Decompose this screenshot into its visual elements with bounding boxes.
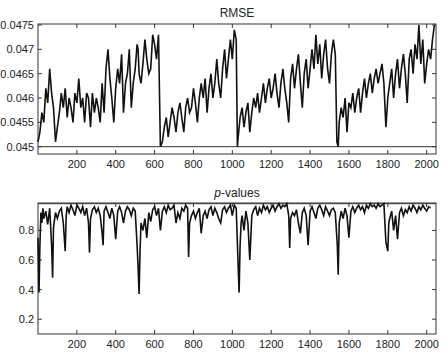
rmse-y-ticks: 0.0450.04550.0460.04650.0470.0475 [0, 19, 436, 153]
y-tick-label: 0.047 [6, 43, 34, 55]
rmse-panel: RMSE 20040060080010001200140016001800200… [0, 6, 439, 170]
x-tick-label: 1400 [298, 338, 322, 350]
x-tick-label: 800 [184, 338, 202, 350]
x-tick-label: 800 [184, 158, 202, 170]
pvalues-series-line [38, 204, 431, 294]
y-tick-label: 0.0475 [0, 19, 34, 31]
x-tick-label: 1200 [259, 338, 283, 350]
x-tick-label: 1600 [337, 338, 361, 350]
y-tick-label: 0.8 [19, 224, 34, 236]
y-tick-label: 0.2 [19, 313, 34, 325]
pvalues-title-rest: -values [221, 186, 260, 200]
rmse-series-line [38, 25, 434, 147]
pvalues-y-ticks: 0.20.40.60.8 [19, 224, 436, 325]
y-tick-label: 0.0455 [0, 116, 34, 128]
x-tick-label: 1600 [337, 158, 361, 170]
x-tick-label: 1800 [376, 158, 400, 170]
x-tick-label: 1000 [220, 338, 244, 350]
x-tick-label: 200 [68, 158, 86, 170]
x-tick-label: 2000 [414, 338, 438, 350]
pvalues-title: p-values [213, 186, 259, 200]
x-tick-label: 2000 [414, 158, 438, 170]
y-tick-label: 0.045 [6, 141, 34, 153]
y-tick-label: 0.4 [19, 284, 34, 296]
x-tick-label: 200 [68, 338, 86, 350]
pvalues-x-ticks: 200400600800100012001400160018002000 [68, 203, 439, 350]
x-tick-label: 1400 [298, 158, 322, 170]
pvalues-panel: p-values 2004006008001000120014001600180… [19, 186, 439, 350]
x-tick-label: 1200 [259, 158, 283, 170]
figure: RMSE 20040060080010001200140016001800200… [0, 0, 446, 362]
rmse-title: RMSE [220, 6, 255, 20]
x-tick-label: 400 [107, 158, 125, 170]
x-tick-label: 400 [107, 338, 125, 350]
x-tick-label: 1000 [220, 158, 244, 170]
y-tick-label: 0.046 [6, 92, 34, 104]
x-tick-label: 1800 [376, 338, 400, 350]
y-tick-label: 0.6 [19, 254, 34, 266]
x-tick-label: 600 [145, 158, 163, 170]
x-tick-label: 600 [145, 338, 163, 350]
y-tick-label: 0.0465 [0, 68, 34, 80]
